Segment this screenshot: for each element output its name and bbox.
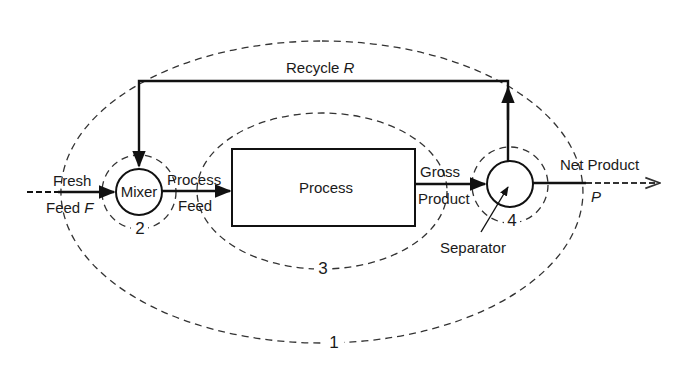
fresh-feed-symbol: F (84, 199, 94, 216)
gross-product-stream: Gross Product (415, 163, 485, 207)
boundary-2-label: 2 (135, 219, 144, 238)
recycle-label: Recycle R (286, 59, 355, 76)
separator-circle (487, 161, 533, 207)
boundary-4-label: 4 (507, 211, 516, 230)
boundary-3-label: 3 (318, 259, 327, 278)
net-product-stream: Net Product P (533, 156, 660, 205)
process-label: Process (299, 179, 353, 196)
fresh-feed-label-line2: Feed F (46, 199, 94, 216)
gross-product-label-line1: Gross (420, 163, 460, 180)
boundary-1-label: 1 (329, 333, 338, 352)
recycle-process-diagram: 1 3 2 4 Recycle R Fresh Feed F Mi (0, 0, 684, 367)
process-feed-label-line2: Feed (178, 197, 212, 214)
mixer-unit: Mixer (116, 169, 162, 215)
process-feed-label-line1: Process (167, 171, 221, 188)
recycle-symbol: R (344, 59, 355, 76)
mixer-label: Mixer (121, 183, 158, 200)
net-product-symbol: P (591, 188, 601, 205)
fresh-feed-stream: Fresh Feed F (27, 172, 114, 216)
fresh-feed-label-line1: Fresh (53, 172, 91, 189)
net-product-label: Net Product (560, 156, 640, 173)
separator-label: Separator (440, 239, 506, 256)
gross-product-label-line2: Product (418, 190, 471, 207)
process-unit: Process (232, 149, 415, 226)
